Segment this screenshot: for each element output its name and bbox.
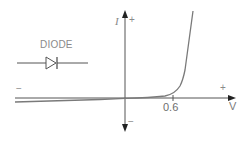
knee-voltage-label: 0.6: [163, 102, 178, 113]
i-axis-up-arrow-icon: [122, 10, 128, 18]
i-axis-label: I: [115, 16, 119, 27]
i-axis-plus-sign: +: [129, 15, 135, 25]
i-axis-minus-sign: −: [128, 117, 134, 127]
i-axis: [122, 10, 128, 132]
diode-title: DIODE: [40, 40, 73, 50]
v-axis-label: V: [229, 101, 236, 112]
iv-curve: [15, 11, 193, 102]
diagram-graphics: [0, 0, 251, 147]
v-axis-plus-sign: +: [220, 83, 226, 93]
diode-symbol: [17, 57, 88, 69]
diode-triangle: [46, 57, 56, 69]
v-axis-minus-sign: −: [16, 84, 22, 94]
diode-iv-diagram: DIODE I + − + − V 0.6: [0, 0, 251, 147]
